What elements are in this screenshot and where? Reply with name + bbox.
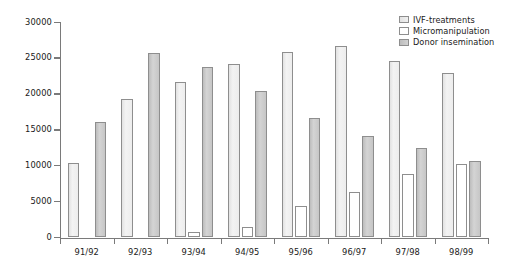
y-axis-tick-label: 30000 bbox=[6, 17, 52, 27]
bar-micro bbox=[349, 192, 361, 237]
bar-ivf bbox=[442, 73, 454, 237]
x-axis-tick bbox=[167, 238, 168, 244]
x-axis-tick-label: 96/97 bbox=[328, 247, 382, 257]
bar-donor bbox=[469, 161, 481, 238]
bar-donor bbox=[202, 67, 214, 238]
bar-donor bbox=[95, 122, 107, 238]
bar-ivf bbox=[282, 52, 294, 237]
x-axis-tick-label: 92/93 bbox=[114, 247, 168, 257]
legend-item-label: IVF-treatments bbox=[413, 15, 475, 25]
y-axis-tick-label: 0 bbox=[6, 232, 52, 242]
donor-insemination-swatch bbox=[399, 39, 409, 47]
bar-ivf bbox=[335, 46, 347, 238]
y-axis-line bbox=[60, 22, 61, 238]
bar-donor bbox=[416, 148, 428, 237]
bar-micro bbox=[402, 174, 414, 237]
bar-ivf bbox=[389, 61, 401, 238]
legend-item[interactable]: Donor insemination bbox=[399, 37, 494, 48]
y-axis-tick bbox=[54, 57, 60, 58]
x-axis-tick bbox=[221, 238, 222, 244]
bar-ivf bbox=[175, 82, 187, 237]
bar-micro bbox=[188, 232, 200, 237]
legend-item-label: Micromanipulation bbox=[413, 26, 490, 36]
x-axis-tick bbox=[114, 238, 115, 244]
x-axis-tick bbox=[381, 238, 382, 244]
x-axis-tick-label: 94/95 bbox=[221, 247, 275, 257]
bar-micro bbox=[295, 206, 307, 238]
bar-ivf bbox=[121, 99, 133, 238]
x-axis-tick-label: 97/98 bbox=[381, 247, 435, 257]
y-axis-tick bbox=[54, 22, 60, 23]
x-axis-tick-label: 93/94 bbox=[167, 247, 221, 257]
micromanipulation-swatch bbox=[399, 27, 409, 35]
x-axis-tick-label: 91/92 bbox=[60, 247, 114, 257]
x-axis-tick bbox=[488, 238, 489, 244]
bar-donor bbox=[309, 118, 321, 238]
bar-micro bbox=[242, 227, 254, 238]
y-axis-tick-label: 20000 bbox=[6, 88, 52, 98]
x-axis-tick bbox=[274, 238, 275, 244]
y-axis-tick-label: 15000 bbox=[6, 124, 52, 134]
bar-donor bbox=[255, 91, 267, 238]
y-axis-tick-label: 5000 bbox=[6, 196, 52, 206]
bar-donor bbox=[148, 53, 160, 238]
y-axis-tick bbox=[54, 129, 60, 130]
x-axis-tick bbox=[60, 238, 61, 244]
bar-ivf bbox=[68, 163, 80, 238]
legend-item-label: Donor insemination bbox=[413, 37, 494, 47]
x-axis-tick bbox=[435, 238, 436, 244]
bar-chart: 050001000015000200002500030000 91/9292/9… bbox=[0, 0, 508, 272]
y-axis-tick-label: 25000 bbox=[6, 52, 52, 62]
x-axis-tick bbox=[328, 238, 329, 244]
x-axis-tick-label: 98/99 bbox=[435, 247, 489, 257]
legend-item[interactable]: IVF-treatments bbox=[399, 14, 494, 25]
bar-ivf bbox=[228, 64, 240, 237]
y-axis-tick bbox=[54, 165, 60, 166]
legend-item[interactable]: Micromanipulation bbox=[399, 25, 494, 36]
y-axis-tick bbox=[54, 201, 60, 202]
chart-legend: IVF-treatmentsMicromanipulationDonor ins… bbox=[399, 14, 494, 48]
bar-micro bbox=[456, 164, 468, 238]
x-axis-tick-label: 95/96 bbox=[274, 247, 328, 257]
ivf-swatch bbox=[399, 16, 409, 24]
y-axis-tick bbox=[54, 93, 60, 94]
y-axis-tick-label: 10000 bbox=[6, 160, 52, 170]
bar-donor bbox=[362, 136, 374, 237]
